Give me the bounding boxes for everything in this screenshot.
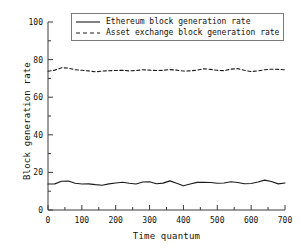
- legend-item-asset-exchange: Asset exchange block generation rate: [75, 27, 279, 38]
- x-tick-label: 600: [244, 216, 258, 225]
- y-tick-label: 100: [8, 18, 43, 27]
- x-tick-label: 500: [210, 216, 224, 225]
- y-tick-label: 80: [8, 55, 43, 64]
- series-line: [48, 68, 285, 72]
- chart-figure: Block generation rate Time quantum 02040…: [0, 0, 301, 250]
- legend-label-ethereum: Ethereum block generation rate: [106, 17, 251, 27]
- data-series: [48, 68, 285, 186]
- x-tick-label: 400: [176, 216, 190, 225]
- x-tick-label: 300: [142, 216, 156, 225]
- x-tick-label: 700: [278, 216, 292, 225]
- x-tick-label: 200: [108, 216, 122, 225]
- legend-item-ethereum: Ethereum block generation rate: [75, 16, 279, 27]
- chart-legend: Ethereum block generation rate Asset exc…: [71, 13, 284, 41]
- series-line: [48, 180, 285, 186]
- x-tick-label: 0: [46, 216, 51, 225]
- y-tick-label: 20: [8, 168, 43, 177]
- legend-label-asset-exchange: Asset exchange block generation rate: [106, 28, 279, 38]
- solid-line-sample: [75, 17, 101, 27]
- x-tick-label: 100: [75, 216, 89, 225]
- y-tick-label: 60: [8, 93, 43, 102]
- y-tick-label: 0: [8, 206, 43, 215]
- dashed-line-sample: [75, 28, 101, 38]
- y-tick-label: 40: [8, 130, 43, 139]
- x-axis-title: Time quantum: [48, 231, 285, 241]
